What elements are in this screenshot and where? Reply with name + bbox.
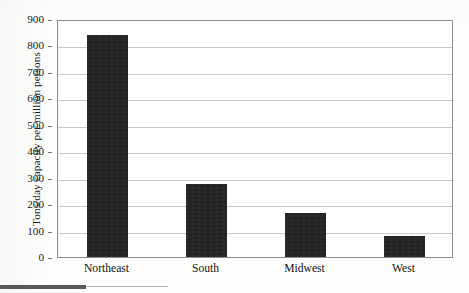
y-axis-tick-mark [48,73,52,74]
bar-texture [186,184,227,257]
bar [384,236,425,257]
y-axis-tick-mark [48,46,52,47]
bar-texture [87,35,128,257]
y-axis-tick-mark [48,258,52,259]
y-axis-tick-mark [48,126,52,127]
y-axis-tick-mark [48,232,52,233]
y-axis-tick-label: 400 [27,147,44,158]
footer-rule [0,285,86,289]
bar-series-group [58,21,452,257]
y-axis-tick-mark [48,179,52,180]
y-axis-tick-label: 300 [27,173,44,184]
bar [285,213,326,257]
y-axis-tick-label: 700 [27,67,44,78]
bar-texture [285,213,326,257]
x-axis-tick-label: West [392,261,415,277]
bar [186,184,227,257]
x-axis-tick-label: Northeast [84,261,129,277]
y-axis-tick-label: 0 [38,252,44,263]
y-axis-tick-label: 100 [27,226,44,237]
y-axis-tick-mark [48,152,52,153]
y-axis-tick-mark [48,99,52,100]
x-axis-tick-label-group: NortheastSouthMidwestWest [57,261,453,279]
y-axis-tick-label-group: 9008007006005004003002001000 [0,20,52,258]
y-axis-tick-mark [48,20,52,21]
y-axis-tick-mark [48,205,52,206]
x-axis-tick-label: Midwest [284,261,325,277]
plot-area [57,20,453,258]
y-axis-tick-label: 900 [27,14,44,25]
y-axis-tick-label: 800 [27,41,44,52]
bar-chart-figure: Tons/day capacity per million persons 90… [0,0,469,293]
y-axis-tick-label: 500 [27,120,44,131]
y-axis-tick-label: 200 [27,200,44,211]
x-axis-tick-label: South [192,261,219,277]
bar-texture [384,236,425,257]
footer-rule-tail [86,286,168,287]
y-axis-tick-label: 600 [27,94,44,105]
bar [87,35,128,257]
